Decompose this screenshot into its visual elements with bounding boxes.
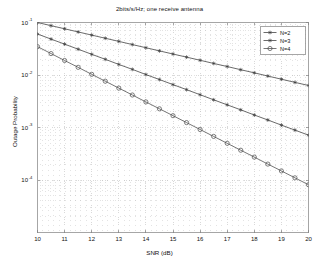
x-tick-label: 14 (143, 236, 150, 242)
svg-text:10: 10 (21, 125, 28, 131)
y-tick-label: 10-3 (21, 122, 33, 130)
x-tick-label: 15 (170, 236, 177, 242)
x-tick-label: 12 (88, 236, 95, 242)
legend-label: N=4 (280, 46, 290, 52)
y-axis-label: Outage Probability (11, 62, 18, 182)
y-tick-label: 10-4 (21, 175, 33, 183)
legend-box: N=2N=3N=4 (260, 26, 305, 54)
y-tick-label: 10-1 (21, 17, 33, 25)
svg-text:-2: -2 (29, 70, 33, 75)
x-tick-label: 20 (305, 236, 312, 242)
svg-text:10: 10 (21, 20, 28, 26)
legend-label: N=2 (280, 30, 290, 36)
figure-window: 2bits/s/Hz; one receive antenna 10111213… (0, 0, 319, 267)
svg-text:10: 10 (21, 177, 28, 183)
svg-text:-3: -3 (29, 122, 33, 127)
y-tick-label: 10-2 (21, 70, 33, 78)
legend-label: N=3 (280, 38, 290, 44)
x-tick-label: 17 (224, 236, 231, 242)
svg-text:10: 10 (21, 72, 28, 78)
x-tick-label: 11 (61, 236, 68, 242)
x-axis-label: SNR (dB) (0, 249, 319, 256)
x-tick-label: 19 (278, 236, 285, 242)
x-tick-label: 16 (197, 236, 204, 242)
x-tick-label: 13 (115, 236, 122, 242)
svg-text:-1: -1 (29, 17, 33, 22)
svg-text:-4: -4 (29, 175, 33, 180)
x-tick-label: 18 (251, 236, 258, 242)
x-tick-label: 10 (34, 236, 41, 242)
plot-canvas: 101112131415161718192010-110-210-310-4 N… (0, 0, 319, 267)
